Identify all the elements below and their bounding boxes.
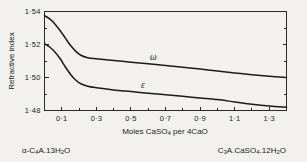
data-curves [45, 16, 287, 108]
x-axis-tick-labels: 0·10·30·50·70·91·11·3 [56, 114, 275, 123]
plot-frame [45, 12, 287, 111]
y-axis-tick-labels: 1·481·501·521·54 [25, 7, 41, 115]
curve-label-epsilon: ε [141, 80, 145, 90]
figure-container: 0·10·30·50·70·91·11·3 1·481·501·521·54 ω… [0, 0, 307, 162]
x-tick-label: 0·1 [56, 114, 67, 123]
y-tick-label: 1·52 [25, 40, 41, 49]
curve-ω [45, 16, 287, 78]
formula-text: .12H [260, 146, 277, 155]
y-axis-ticks [45, 12, 287, 95]
curve-label-omega: ω [150, 52, 157, 62]
x-tick-label: 1·3 [263, 114, 274, 123]
formula-text: α-C [22, 146, 35, 155]
formula-text: O [64, 146, 70, 155]
x-tick-label: 1·1 [229, 114, 240, 123]
formula-text: A.CaSO [227, 146, 256, 155]
x-axis-title-mid: per 4CaO [171, 127, 208, 136]
curve-ε [45, 44, 287, 108]
x-axis-ticks [62, 107, 269, 111]
formula-text: O [280, 146, 286, 155]
refractive-index-chart: 0·10·30·50·70·91·11·3 1·481·501·521·54 ω… [0, 0, 307, 162]
y-axis-title: Refractive index [7, 32, 16, 89]
x-tick-label: 0·3 [91, 114, 102, 123]
x-axis-title-lead: Moles CaSO [122, 127, 167, 136]
left-endpoint-label: α-C4A.13H2O [22, 146, 70, 155]
y-tick-label: 1·48 [25, 106, 41, 115]
x-axis-title: Moles CaSO4 per 4CaO [122, 127, 208, 136]
x-tick-label: 0·5 [125, 114, 136, 123]
y-tick-label: 1·50 [25, 73, 41, 82]
right-endpoint-label: C3A.CaSO4.12H2O [218, 146, 286, 155]
x-tick-label: 0·9 [194, 114, 205, 123]
x-tick-label: 0·7 [160, 114, 171, 123]
y-tick-label: 1·54 [25, 7, 41, 16]
formula-text: A.13H [38, 146, 60, 155]
